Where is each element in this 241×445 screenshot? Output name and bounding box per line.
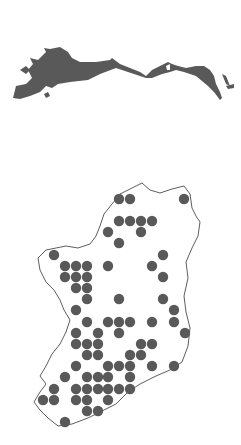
- occurrence-dot: [179, 194, 189, 204]
- occurrence-dot: [49, 395, 59, 405]
- occurrence-dot: [82, 283, 92, 293]
- occurrence-dot: [82, 395, 92, 405]
- occurrence-dot: [82, 317, 92, 327]
- occurrence-dot: [93, 339, 103, 349]
- occurrence-dot: [49, 250, 59, 260]
- occurrence-dot: [103, 395, 113, 405]
- occurrence-dot: [158, 294, 168, 304]
- occurrence-dot: [60, 417, 70, 427]
- occurrence-dot: [82, 350, 92, 360]
- occurrence-dot: [158, 250, 168, 260]
- occurrence-dot: [125, 216, 135, 226]
- distribution-map: [0, 180, 241, 445]
- occurrence-dot: [71, 384, 81, 394]
- occurrence-dot: [125, 194, 135, 204]
- occurrence-dot: [103, 361, 113, 371]
- occurrence-dot: [71, 361, 81, 371]
- occurrence-dot: [114, 328, 124, 338]
- occurrence-dot: [71, 328, 81, 338]
- occurrence-dot: [93, 372, 103, 382]
- occurrence-dot: [114, 384, 124, 394]
- occurrence-dot: [82, 384, 92, 394]
- occurrence-dot: [49, 384, 59, 394]
- occurrence-dot: [93, 384, 103, 394]
- occurrence-dot: [103, 372, 113, 382]
- occurrence-dot: [71, 261, 81, 271]
- occurrence-dot: [71, 395, 81, 405]
- occurrence-dot: [82, 406, 92, 416]
- occurrence-dot: [60, 261, 70, 271]
- occurrence-dot: [93, 328, 103, 338]
- occurrence-dot: [169, 361, 179, 371]
- occurrence-dot: [147, 339, 157, 349]
- occurrence-dot: [147, 361, 157, 371]
- occurrence-dot: [125, 317, 135, 327]
- occurrence-dot: [82, 272, 92, 282]
- occurrence-dots: [38, 194, 190, 427]
- occurrence-dot: [82, 294, 92, 304]
- ireland-outline-map: [0, 180, 241, 445]
- occurrence-dot: [114, 294, 124, 304]
- occurrence-dot: [125, 350, 135, 360]
- occurrence-dot: [136, 216, 146, 226]
- occurrence-dot: [158, 272, 168, 282]
- occurrence-dot: [114, 238, 124, 248]
- occurrence-dot: [103, 227, 113, 237]
- occurrence-dot: [169, 317, 179, 327]
- occurrence-dot: [82, 261, 92, 271]
- occurrence-dot: [82, 339, 92, 349]
- occurrence-dot: [60, 272, 70, 282]
- occurrence-dot: [103, 261, 113, 271]
- occurrence-dot: [125, 384, 135, 394]
- occurrence-dot: [71, 305, 81, 315]
- occurrence-dot: [71, 272, 81, 282]
- occurrence-dot: [147, 261, 157, 271]
- occurrence-dot: [169, 305, 179, 315]
- occurrence-dot: [103, 317, 113, 327]
- occurrence-dot: [93, 350, 103, 360]
- occurrence-dot: [180, 328, 190, 338]
- occurrence-dot: [147, 216, 157, 226]
- occurrence-dot: [60, 372, 70, 382]
- occurrence-dot: [71, 283, 81, 293]
- occurrence-dot: [114, 194, 124, 204]
- occurrence-dot: [114, 317, 124, 327]
- occurrence-dot: [114, 361, 124, 371]
- eurasia-range-shape: [0, 0, 241, 150]
- occurrence-dot: [136, 350, 146, 360]
- occurrence-dot: [38, 395, 48, 405]
- occurrence-dot: [125, 372, 135, 382]
- occurrence-dot: [93, 406, 103, 416]
- occurrence-dot: [125, 361, 135, 371]
- occurrence-dot: [147, 317, 157, 327]
- occurrence-dot: [136, 339, 146, 349]
- range-map: [0, 0, 241, 150]
- occurrence-dot: [71, 339, 81, 349]
- occurrence-dot: [103, 384, 113, 394]
- occurrence-dot: [114, 216, 124, 226]
- occurrence-dot: [136, 227, 146, 237]
- occurrence-dot: [82, 372, 92, 382]
